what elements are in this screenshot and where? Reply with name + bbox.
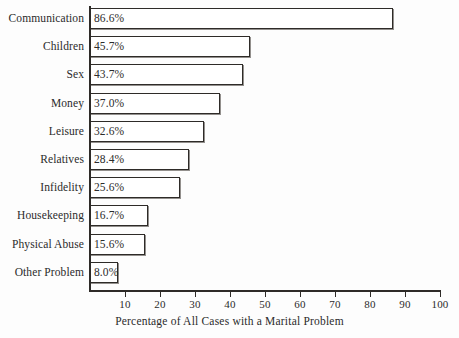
bar-row: Leisure32.6% (0, 121, 459, 142)
bar-row: Children45.7% (0, 36, 459, 57)
x-tick (230, 291, 231, 297)
category-label: Money (0, 93, 84, 114)
bar-value-label: 15.6% (94, 234, 124, 255)
category-label: Physical Abuse (0, 234, 84, 255)
bar (90, 8, 393, 29)
x-tick-label: 90 (390, 298, 420, 310)
bar-value-label: 16.7% (94, 205, 124, 226)
x-tick-label: 60 (285, 298, 315, 310)
bar-value-label: 32.6% (94, 121, 124, 142)
category-label: Relatives (0, 149, 84, 170)
bar-row: Sex43.7% (0, 64, 459, 85)
bar-value-label: 37.0% (94, 93, 124, 114)
x-tick (300, 291, 301, 297)
category-label: Leisure (0, 121, 84, 142)
bar-row: Physical Abuse15.6% (0, 234, 459, 255)
category-label: Housekeeping (0, 205, 84, 226)
category-label: Infidelity (0, 177, 84, 198)
x-tick (265, 291, 266, 297)
x-tick (335, 291, 336, 297)
x-tick-label: 40 (215, 298, 245, 310)
category-label: Children (0, 36, 84, 57)
bar-value-label: 45.7% (94, 36, 124, 57)
x-tick-label: 80 (355, 298, 385, 310)
bar-row: Money37.0% (0, 93, 459, 114)
bar-value-label: 28.4% (94, 149, 124, 170)
bar-chart: Communication86.6%Children45.7%Sex43.7%M… (0, 0, 459, 338)
bar-value-label: 86.6% (94, 8, 124, 29)
x-tick (125, 291, 126, 297)
bar-row: Infidelity25.6% (0, 177, 459, 198)
x-tick (195, 291, 196, 297)
category-label: Other Problem (0, 262, 84, 283)
x-tick (160, 291, 161, 297)
bar-row: Other Problem8.0% (0, 262, 459, 283)
bar-value-label: 25.6% (94, 177, 124, 198)
x-tick (405, 291, 406, 297)
bar-value-label: 43.7% (94, 64, 124, 85)
x-tick-label: 100 (425, 298, 455, 310)
bar-row: Housekeeping16.7% (0, 205, 459, 226)
x-tick-label: 10 (110, 298, 140, 310)
category-label: Communication (0, 8, 84, 29)
x-tick-label: 20 (145, 298, 175, 310)
x-tick-label: 50 (250, 298, 280, 310)
category-label: Sex (0, 64, 84, 85)
x-tick (440, 291, 441, 297)
bar-row: Communication86.6% (0, 8, 459, 29)
bar-row: Relatives28.4% (0, 149, 459, 170)
x-axis-title: Percentage of All Cases with a Marital P… (0, 315, 459, 327)
x-tick (370, 291, 371, 297)
x-tick-label: 70 (320, 298, 350, 310)
x-tick-label: 30 (180, 298, 210, 310)
bar-value-label: 8.0% (94, 262, 118, 283)
